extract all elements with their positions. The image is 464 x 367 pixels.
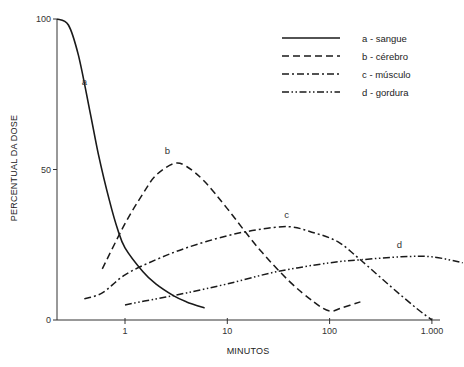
x-tick-label: 1.000 (421, 326, 444, 336)
series-line-c (84, 227, 432, 320)
legend: a - sangueb - cérebroc - músculod - gord… (282, 33, 411, 98)
x-tick-label: 10 (222, 326, 232, 336)
legend-label: c - músculo (362, 69, 411, 80)
series-line-b (102, 163, 360, 311)
chart: 050100 1101001.000 PERCENTUAL DA DOSE MI… (0, 0, 464, 367)
curve-label-b: b (165, 145, 170, 156)
y-axis-title: PERCENTUAL DA DOSE (9, 115, 19, 221)
series-group (57, 19, 463, 320)
x-ticks: 1101001.000 (122, 318, 443, 336)
axes (57, 19, 440, 320)
curve-label-d: d (397, 239, 402, 250)
curve-label-a: a (82, 76, 88, 87)
legend-label: d - gordura (362, 87, 409, 98)
y-tick-label: 0 (46, 315, 51, 325)
y-ticks: 050100 (36, 14, 57, 325)
legend-label: b - cérebro (362, 51, 408, 62)
curve-label-c: c (284, 209, 289, 220)
y-tick-label: 100 (36, 14, 51, 24)
y-tick-label: 50 (41, 165, 51, 175)
x-axis-title: MINUTOS (227, 346, 270, 356)
curve-labels: abcd (82, 76, 402, 250)
legend-label: a - sangue (362, 33, 407, 44)
x-tick-label: 1 (122, 326, 127, 336)
x-tick-label: 100 (322, 326, 337, 336)
